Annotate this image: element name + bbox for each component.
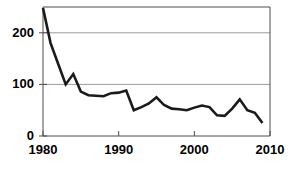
x-axis-label-2000: 2000 xyxy=(180,142,209,157)
y-axis-label-200: 200 xyxy=(12,25,34,40)
x-axis-label-2010: 2010 xyxy=(256,142,285,157)
line-chart: 0100200 1980199020002010 xyxy=(0,0,294,170)
x-axis-label-1980: 1980 xyxy=(29,142,58,157)
y-axis-label-100: 100 xyxy=(12,76,34,91)
chart-canvas: 0100200 1980199020002010 xyxy=(0,0,294,170)
x-axis-label-1990: 1990 xyxy=(104,142,133,157)
